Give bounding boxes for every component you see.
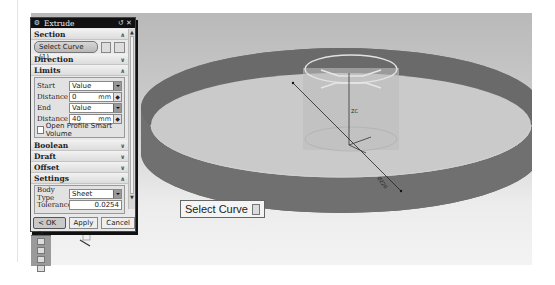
scroll-up-icon[interactable]: ▲ — [129, 29, 135, 36]
start-label: Start — [37, 82, 69, 90]
dialog-body: Section ∧ Select Curve (1) Direction ∨ L… — [31, 29, 128, 216]
start-select-value: Value — [70, 82, 113, 90]
end-select[interactable]: Value — [69, 103, 122, 113]
unit-label: mm — [96, 93, 113, 101]
strip-button[interactable] — [37, 256, 45, 263]
chevron-down-icon: ∨ — [120, 56, 125, 63]
gear-icon[interactable]: ⚙ — [33, 19, 41, 27]
sketch-section-icon[interactable] — [101, 42, 112, 53]
dialog-scrollbar[interactable]: ▲ ▼ — [128, 29, 135, 209]
curve-filter-icon — [252, 204, 260, 215]
draft-label: Draft — [34, 152, 120, 161]
section-label: Section — [34, 30, 120, 39]
apply-button[interactable]: Apply — [69, 217, 99, 229]
end-label: End — [37, 104, 69, 112]
body-type-select[interactable]: Sheet — [69, 189, 122, 199]
checkbox-box[interactable] — [37, 126, 44, 134]
selection-cursor-icon — [78, 232, 94, 248]
strip-button[interactable] — [37, 247, 45, 254]
limits-panel: Start Value Distance 0 mm ◆ End Value — [34, 77, 125, 138]
dialog-title: Extrude — [44, 19, 117, 28]
dialog-buttons: < OK > Apply Cancel — [33, 217, 135, 229]
start-distance-input[interactable]: 0 mm ◆ — [69, 92, 122, 102]
dropdown-arrow-icon[interactable] — [113, 104, 121, 112]
direction-label: Direction — [34, 55, 120, 64]
chevron-up-icon: ∧ — [120, 175, 125, 182]
start-select[interactable]: Value — [69, 81, 122, 91]
body-type-value: Sheet — [70, 190, 113, 198]
section-header-direction[interactable]: Direction ∨ — [31, 54, 128, 65]
tooltip-text: Select Curve — [185, 201, 248, 217]
cancel-button[interactable]: Cancel — [101, 217, 135, 229]
open-profile-label: Open Profile Smart Volume — [46, 122, 122, 138]
end-select-value: Value — [70, 104, 113, 112]
value-options-icon[interactable]: ◆ — [113, 93, 121, 101]
dialog-titlebar[interactable]: ⚙ Extrude ↺ ✕ — [31, 18, 135, 28]
tolerance-value: 0.0254 — [70, 201, 121, 209]
limits-label: Limits — [34, 66, 120, 75]
ok-button[interactable]: < OK > — [33, 217, 66, 229]
strip-button[interactable] — [37, 238, 45, 245]
left-toolbar-strip — [31, 235, 51, 266]
chevron-down-icon: ∨ — [120, 164, 125, 171]
chevron-up-icon: ∧ — [120, 67, 125, 74]
section-header-draft[interactable]: Draft ∨ — [31, 151, 128, 162]
dropdown-arrow-icon[interactable] — [113, 82, 121, 90]
strip-button[interactable] — [37, 265, 45, 272]
open-profile-checkbox[interactable]: Open Profile Smart Volume — [37, 125, 122, 135]
tolerance-input[interactable]: 0.0254 — [69, 200, 122, 210]
chevron-down-icon: ∨ — [120, 153, 125, 160]
extrude-dialog: ⚙ Extrude ↺ ✕ Section ∧ Select Curve (1)… — [30, 17, 136, 232]
close-icon[interactable]: ✕ — [125, 19, 133, 27]
section-header-section[interactable]: Section ∧ — [31, 29, 128, 40]
start-distance-label: Distance — [37, 93, 69, 101]
start-distance-value: 0 — [70, 93, 96, 101]
section-header-offset[interactable]: Offset ∨ — [31, 162, 128, 173]
curve-icon[interactable] — [114, 42, 125, 53]
boolean-label: Boolean — [34, 141, 120, 150]
reset-icon[interactable]: ↺ — [117, 19, 125, 27]
select-curve-button[interactable]: Select Curve (1) — [34, 41, 98, 53]
scroll-thumb[interactable] — [130, 36, 134, 194]
select-curve-row: Select Curve (1) — [31, 40, 128, 54]
select-curve-tooltip: Select Curve — [180, 200, 265, 218]
svg-text:ZC: ZC — [351, 108, 358, 114]
tolerance-label: Tolerance — [37, 201, 69, 209]
section-header-settings[interactable]: Settings ∧ — [31, 173, 128, 184]
dropdown-arrow-icon[interactable] — [113, 190, 121, 198]
settings-label: Settings — [34, 174, 120, 183]
section-header-boolean[interactable]: Boolean ∨ — [31, 140, 128, 151]
chevron-up-icon: ∧ — [120, 31, 125, 38]
page-rule — [17, 0, 18, 262]
section-header-limits[interactable]: Limits ∧ — [31, 65, 128, 76]
scroll-down-icon[interactable]: ▼ — [129, 194, 135, 201]
settings-panel: Body Type Sheet Tolerance 0.0254 — [34, 185, 125, 214]
chevron-down-icon: ∨ — [120, 142, 125, 149]
offset-label: Offset — [34, 163, 120, 172]
body-type-label: Body Type — [37, 186, 69, 202]
